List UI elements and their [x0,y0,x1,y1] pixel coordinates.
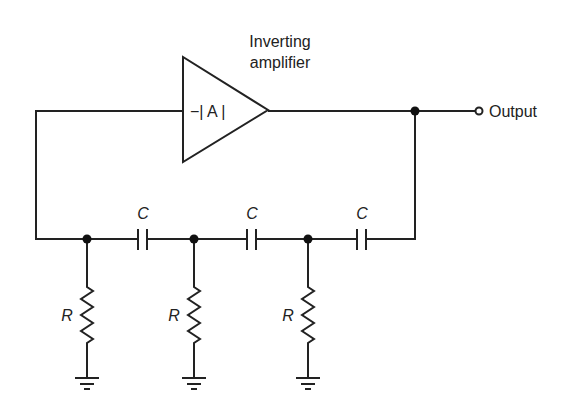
wire-feedback-right [366,111,415,239]
gain-label: −| A | [190,103,225,120]
output-label: Output [489,103,538,120]
capacitor-label: C [137,205,149,222]
resistor-1 [81,239,93,378]
resistor-2 [188,239,200,378]
resistor-3 [302,239,314,378]
ground-icon [296,378,320,389]
junction-dot [304,235,313,244]
amplifier-label-1: Inverting [249,33,310,50]
capacitor-label: C [246,205,258,222]
capacitor-2 [247,229,256,250]
output-terminal [476,108,483,115]
ground-icon [182,378,206,389]
capacitor-3 [357,229,366,250]
amplifier-label-2: amplifier [250,54,311,71]
resistor-label: R [282,307,294,324]
circuit-diagram: Inverting amplifier −| A | Output C C C … [0,0,570,418]
capacitor-1 [138,229,147,250]
ground-icon [75,378,99,389]
junction-dot [83,235,92,244]
resistor-label: R [168,307,180,324]
junction-dot [190,235,199,244]
capacitor-label: C [356,205,368,222]
junction-dot [411,107,420,116]
wire-input [36,111,183,239]
resistor-label: R [61,307,73,324]
